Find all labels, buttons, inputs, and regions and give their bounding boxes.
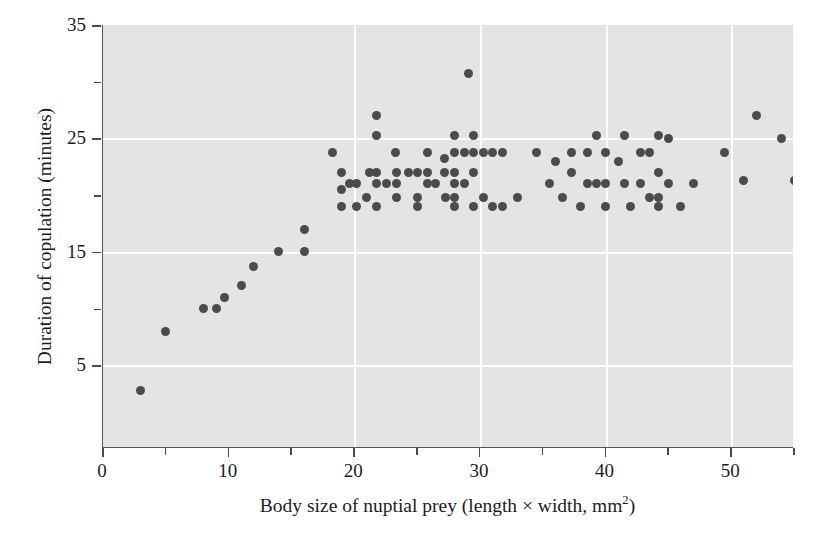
data-point: [404, 168, 413, 177]
x-axis-minor-tick: [165, 448, 167, 455]
x-axis-minor-tick: [667, 448, 669, 455]
data-point: [391, 148, 400, 157]
plot-panel: [102, 25, 793, 448]
data-point: [372, 111, 381, 120]
data-point: [469, 202, 478, 211]
gridline-vertical: [354, 25, 356, 447]
x-axis-title: Body size of nuptial prey (length × widt…: [102, 493, 793, 517]
data-point: [689, 179, 698, 188]
data-point: [498, 202, 507, 211]
data-point: [199, 304, 208, 313]
data-point: [450, 202, 459, 211]
data-point: [440, 154, 449, 163]
data-point: [664, 134, 673, 143]
x-axis-tick: [228, 448, 230, 457]
data-point: [392, 179, 401, 188]
data-point: [479, 148, 488, 157]
data-point: [469, 168, 478, 177]
data-point: [676, 202, 685, 211]
data-point: [752, 111, 761, 120]
data-point: [423, 148, 432, 157]
y-axis-minor-tick: [94, 82, 101, 84]
x-axis-minor-tick: [542, 448, 544, 455]
data-point: [136, 386, 145, 395]
data-point: [592, 179, 601, 188]
data-point: [576, 202, 585, 211]
data-point: [382, 179, 391, 188]
y-axis-tick-label: 15: [67, 241, 86, 263]
data-point: [337, 168, 346, 177]
data-point: [423, 179, 432, 188]
gridline-horizontal: [103, 365, 793, 367]
data-point: [664, 179, 673, 188]
y-axis-tick: [92, 365, 101, 367]
x-axis-title-main: Body size of nuptial prey (length × widt…: [260, 495, 622, 516]
data-point: [583, 179, 592, 188]
data-point: [300, 247, 309, 256]
data-point: [720, 148, 729, 157]
data-point: [583, 148, 592, 157]
data-point: [237, 281, 246, 290]
data-point: [654, 168, 663, 177]
x-axis-tick: [730, 448, 732, 457]
data-point: [450, 193, 459, 202]
x-axis-tick-label: 50: [721, 460, 740, 482]
y-axis-tick: [92, 138, 101, 140]
y-axis-minor-tick: [94, 309, 101, 311]
data-point: [636, 179, 645, 188]
scatter-plot-figure: 010203040505152535 Body size of nuptial …: [0, 0, 834, 552]
y-axis-tick: [92, 25, 101, 27]
data-point: [450, 179, 459, 188]
data-point: [488, 148, 497, 157]
data-point: [790, 176, 794, 185]
data-point: [592, 131, 601, 140]
data-point: [601, 202, 610, 211]
data-point: [620, 131, 629, 140]
data-point: [372, 131, 381, 140]
data-point: [654, 202, 663, 211]
gridline-horizontal: [103, 138, 793, 140]
data-point: [567, 148, 576, 157]
data-point: [328, 148, 337, 157]
data-point: [513, 193, 522, 202]
x-axis-tick: [479, 448, 481, 457]
gridline-vertical: [731, 25, 733, 447]
data-point: [654, 131, 663, 140]
data-point: [337, 202, 346, 211]
data-point: [601, 148, 610, 157]
data-point: [558, 193, 567, 202]
data-point: [614, 157, 623, 166]
x-axis-tick-label: 0: [97, 460, 107, 482]
data-point: [372, 202, 381, 211]
data-point: [479, 193, 488, 202]
data-point: [392, 193, 401, 202]
data-point: [413, 168, 422, 177]
y-axis-tick-label: 35: [67, 14, 86, 36]
data-point: [440, 168, 449, 177]
data-point: [337, 185, 346, 194]
data-point: [220, 293, 229, 302]
data-point: [626, 202, 635, 211]
gridline-vertical: [480, 25, 482, 447]
data-point: [464, 69, 473, 78]
data-point: [274, 247, 283, 256]
x-axis-tick: [353, 448, 355, 457]
y-axis-tick-label: 25: [67, 127, 86, 149]
data-point: [777, 134, 786, 143]
data-point: [161, 327, 170, 336]
data-point: [431, 179, 440, 188]
x-axis-tick-label: 10: [218, 460, 237, 482]
data-point: [545, 179, 554, 188]
data-point: [460, 179, 469, 188]
data-point: [567, 168, 576, 177]
data-point: [372, 168, 381, 177]
data-point: [300, 225, 309, 234]
data-point: [212, 304, 221, 313]
data-point: [739, 176, 748, 185]
data-point: [645, 193, 654, 202]
data-point: [392, 168, 401, 177]
data-point: [249, 262, 258, 271]
x-axis-tick-label: 40: [595, 460, 614, 482]
data-point: [488, 202, 497, 211]
x-axis-tick: [605, 448, 607, 457]
